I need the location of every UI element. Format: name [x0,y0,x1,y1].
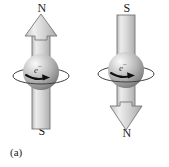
panel-b-electron-sphere [85,0,169,167]
panel-b: S [85,0,169,167]
spin-magnetic-moment-figure: N [0,0,169,167]
panel-a: N [0,0,84,167]
panel-b-electron-label: e− [119,62,127,73]
panel-a-electron-label: e− [34,64,42,75]
panel-a-electron-sphere [0,0,84,167]
